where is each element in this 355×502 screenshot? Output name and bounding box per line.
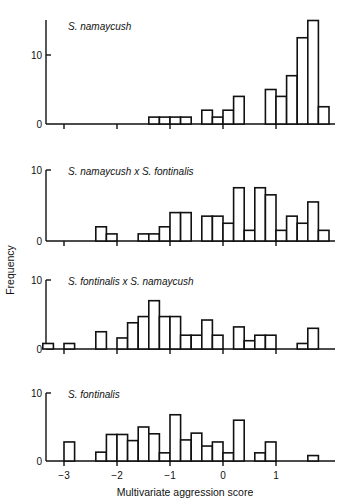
y-tick-label: 10 [31, 50, 43, 61]
y-tick-label: 10 [31, 388, 43, 399]
histogram-bar [159, 317, 170, 349]
histogram-bar [212, 335, 223, 349]
histogram-bar [181, 335, 192, 349]
histogram-bar [159, 453, 170, 461]
histogram-bar [265, 195, 276, 241]
histogram-bar [287, 76, 298, 124]
x-axis-title: Multivariate aggression score [117, 486, 254, 498]
panel-title: S. namaycush x S. fontinalis [68, 166, 194, 177]
histogram-bar [170, 213, 181, 241]
histogram-bar [234, 96, 245, 124]
histogram-bar [64, 343, 75, 349]
histogram-bar [234, 327, 245, 349]
histogram-bar [265, 442, 276, 461]
histogram-bar [318, 107, 329, 124]
histogram-bar [117, 434, 128, 461]
histogram-bar [297, 38, 308, 124]
panel-title: S. namaycush [68, 21, 132, 32]
histogram-bar [234, 420, 245, 461]
histogram-bar [308, 21, 319, 125]
histogram-bar [128, 323, 139, 349]
histogram-bar [149, 117, 160, 124]
histogram-bar [128, 441, 139, 461]
y-tick-label: 0 [36, 456, 42, 467]
histogram-bar [149, 234, 160, 241]
histogram-bar [138, 234, 149, 241]
y-tick-label: 10 [31, 275, 43, 286]
histogram-bar [96, 332, 107, 349]
histogram-bar [276, 96, 287, 124]
x-tick-label: 1 [273, 470, 279, 481]
x-tick-label: −2 [111, 470, 123, 481]
panel-title: S. fontinalis x S. namaycush [68, 276, 194, 287]
histogram-bar [276, 230, 287, 241]
y-tick-label: 10 [31, 165, 43, 176]
x-tick-label: −3 [58, 470, 70, 481]
x-tick-label: −1 [164, 470, 176, 481]
histogram-bar [159, 117, 170, 124]
histogram-bar [212, 216, 223, 241]
histogram-bar [308, 328, 319, 349]
histogram-bar [106, 434, 117, 461]
histogram-bar [106, 234, 117, 241]
histogram-bar [297, 343, 308, 349]
histogram-bar [96, 452, 107, 461]
histogram-bar [212, 117, 223, 124]
histogram-bar [202, 320, 213, 349]
histogram-bar [149, 301, 160, 349]
histogram-bar [255, 335, 266, 349]
histogram-bar [149, 434, 160, 461]
histogram-bar [223, 223, 234, 241]
y-tick-label: 0 [36, 119, 42, 130]
histogram-bar [244, 230, 255, 241]
histogram-bar [117, 338, 128, 349]
histogram-bar [297, 223, 308, 241]
histogram-bar [265, 90, 276, 125]
histogram-bar [318, 230, 329, 241]
histogram-bar [96, 227, 107, 241]
histogram-bar [191, 335, 202, 349]
histogram-bar [244, 341, 255, 349]
histogram-bar [181, 213, 192, 241]
histogram-bar [138, 317, 149, 349]
histogram-bar [181, 440, 192, 461]
histogram-bar [138, 427, 149, 461]
y-tick-label: 0 [36, 344, 42, 355]
histogram-bar [255, 453, 266, 461]
panel-title: S. fontinalis [68, 389, 120, 400]
histogram-bar [223, 110, 234, 124]
histogram-bar [191, 433, 202, 461]
histogram-bar [234, 188, 245, 241]
histogram-bar [308, 456, 319, 461]
histogram-bar [159, 227, 170, 241]
histogram-bar [265, 335, 276, 349]
x-tick-label: 0 [220, 470, 226, 481]
histogram-bar [212, 442, 223, 461]
histogram-bar [43, 343, 54, 349]
histogram-bar [181, 117, 192, 124]
histogram-bar [64, 442, 75, 461]
histogram-bar [223, 453, 234, 461]
histogram-bar [202, 446, 213, 461]
histogram-bar [202, 216, 213, 241]
histogram-bar [170, 415, 181, 461]
histogram-bar [170, 117, 181, 124]
y-axis-title: Frequency [4, 244, 16, 294]
histogram-bar [308, 202, 319, 241]
histogram-figure: 010S. namaycush010S. namaycush x S. font… [0, 0, 355, 502]
histogram-bar [287, 216, 298, 241]
histogram-bar [202, 110, 213, 124]
y-tick-label: 0 [36, 236, 42, 247]
histogram-bar [170, 317, 181, 349]
histogram-bar [255, 188, 266, 241]
